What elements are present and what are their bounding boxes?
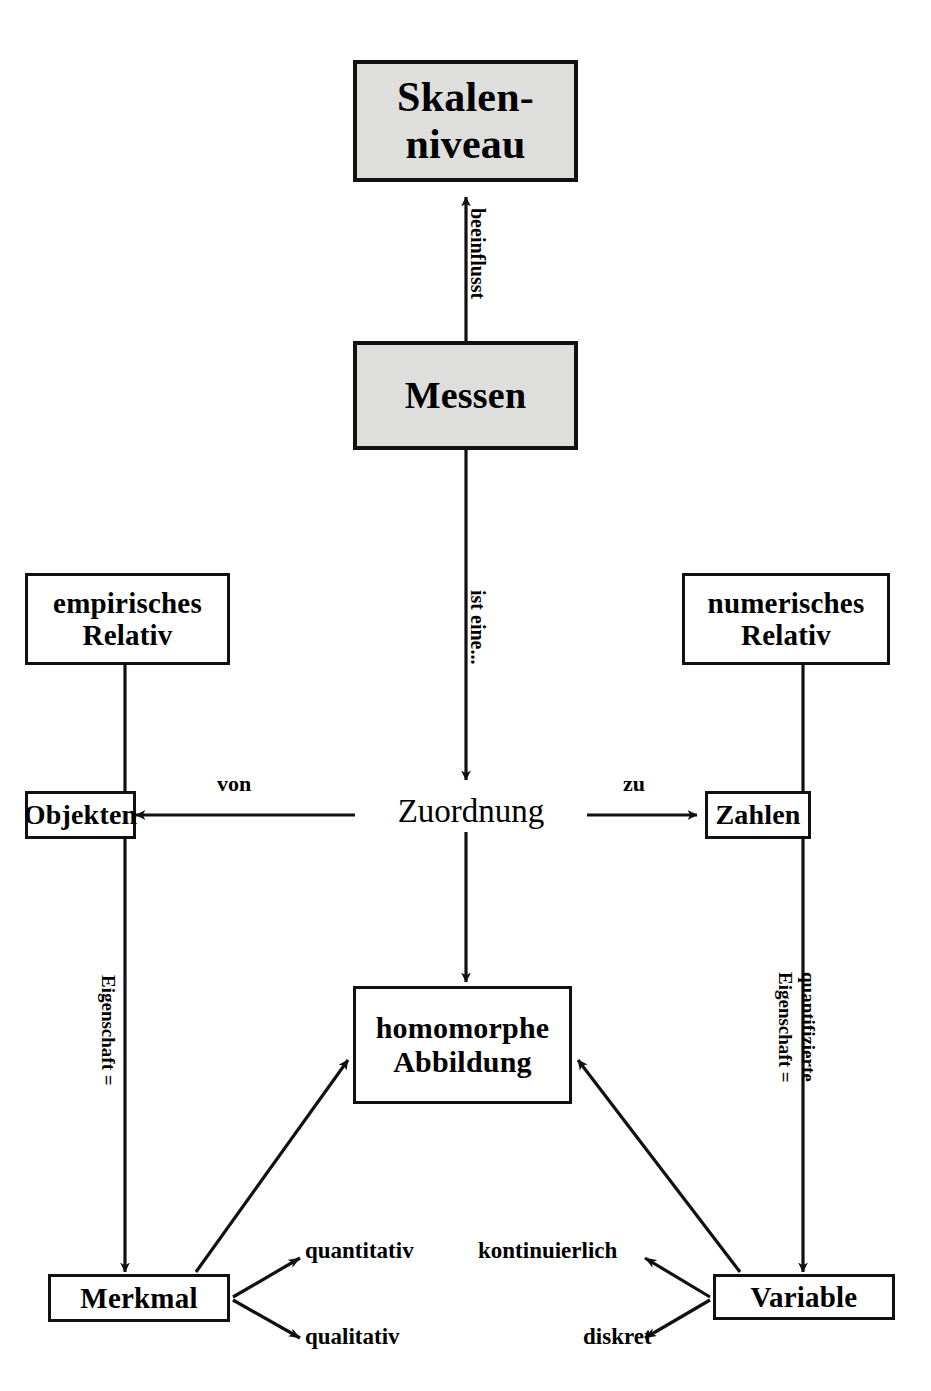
leaf-kontinuierlich-label: kontinuierlich [478,1238,617,1263]
node-zuordnung-label: Zuordnung [398,793,545,829]
node-homomorphe-abbildung-label: homomorphe Abbildung [372,1011,554,1078]
edge-merkmal-to-qualitativ [233,1300,300,1338]
edge-merkmal-to-quantitativ [233,1258,300,1297]
node-objekten-label: Objekten [20,799,142,830]
node-empirisches-relativ-label: empirisches Relativ [49,587,206,652]
node-messen[interactable]: Messen [353,341,578,450]
leaf-quantitativ-label: quantitativ [305,1238,414,1263]
edge-label-quantifizierte-text: quantifizierte [798,972,819,1082]
edge-label-beeinflusst-text: beeinflusst [467,208,489,299]
edge-label-eigenschaft-links-text: Eigenschaft = [98,975,119,1086]
node-zuordnung[interactable]: Zuordnung [355,793,587,830]
edge-variable-to-kontinuierlich [645,1258,710,1297]
node-messen-label: Messen [401,374,531,417]
node-zahlen[interactable]: Zahlen [705,791,811,839]
edge-label-zu-text: zu [623,771,645,796]
edge-label-von-text: von [217,771,251,796]
node-variable-label: Variable [747,1281,862,1313]
edge-label-ist-eine: ist eine... [467,590,488,664]
leaf-qualitativ[interactable]: qualitativ [305,1324,400,1350]
leaf-diskret-label: diskret [583,1324,652,1349]
edge-layer [0,0,931,1391]
leaf-kontinuierlich[interactable]: kontinuierlich [478,1238,617,1264]
edge-label-eigenschaft-links: Eigenschaft = [98,975,118,1086]
node-numerisches-relativ-label: numerisches Relativ [704,587,869,652]
node-empirisches-relativ[interactable]: empirisches Relativ [25,573,230,665]
node-merkmal[interactable]: Merkmal [48,1274,230,1322]
edge-label-ist-eine-text: ist eine... [467,590,489,664]
edge-variable-to-diskret [645,1300,710,1338]
node-merkmal-label: Merkmal [76,1282,201,1314]
edge-label-zu: zu [623,772,645,795]
edge-label-eigenschaft-rechts-text: Eigenschaft = [775,972,796,1083]
leaf-diskret[interactable]: diskret [583,1324,652,1350]
edge-label-beeinflusst: beeinflusst [467,208,488,299]
node-zahlen-label: Zahlen [711,799,804,830]
node-variable[interactable]: Variable [713,1274,895,1320]
node-numerisches-relativ[interactable]: numerisches Relativ [682,573,890,665]
leaf-qualitativ-label: qualitativ [305,1324,400,1349]
node-homomorphe-abbildung[interactable]: homomorphe Abbildung [353,986,572,1104]
node-skalenniveau-label: Skalen- niveau [393,74,538,168]
edge-label-von: von [217,772,251,795]
diagram-canvas: Skalen- niveau Messen empirisches Relati… [0,0,931,1391]
node-objekten[interactable]: Objekten [25,791,136,839]
edge-label-quantifizierte: quantifizierte [798,972,818,1082]
edge-label-eigenschaft-rechts: Eigenschaft = [775,972,795,1083]
leaf-quantitativ[interactable]: quantitativ [305,1238,414,1264]
node-skalenniveau[interactable]: Skalen- niveau [353,60,578,182]
